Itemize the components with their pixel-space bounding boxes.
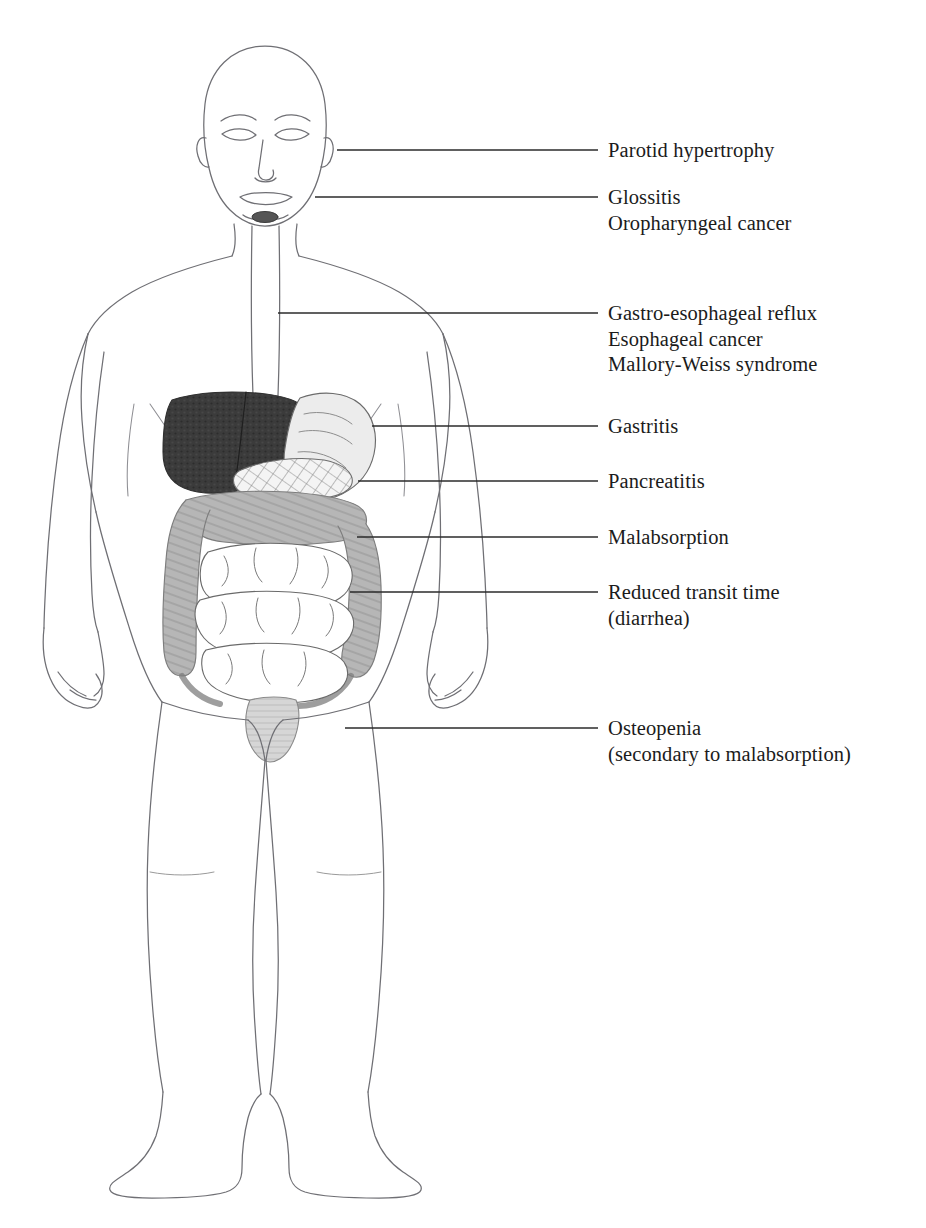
label-gastritis: Gastritis — [608, 414, 678, 440]
label-pancreatitis: Pancreatitis — [608, 469, 705, 495]
label-parotid-line-1: Parotid hypertrophy — [608, 138, 774, 164]
figure-caption — [36, 1216, 676, 1228]
label-esophagus: Gastro-esophageal refluxEsophageal cance… — [608, 301, 818, 378]
label-esophagus-line-2: Esophageal cancer — [608, 327, 818, 353]
label-osteopenia: Osteopenia(secondary to malabsorption) — [608, 716, 851, 767]
label-transit: Reduced transit time(diarrhea) — [608, 580, 780, 631]
label-parotid: Parotid hypertrophy — [608, 138, 774, 164]
label-transit-line-1: Reduced transit time — [608, 580, 780, 606]
label-gastritis-line-1: Gastritis — [608, 414, 678, 440]
label-glossitis-line-1: Glossitis — [608, 185, 792, 211]
label-osteopenia-line-2: (secondary to malabsorption) — [608, 742, 851, 768]
anatomical-figure: Parotid hypertrophyGlossitisOropharyngea… — [0, 0, 926, 1228]
label-list: Parotid hypertrophyGlossitisOropharyngea… — [0, 0, 926, 1228]
label-esophagus-line-1: Gastro-esophageal reflux — [608, 301, 818, 327]
label-esophagus-line-3: Mallory-Weiss syndrome — [608, 352, 818, 378]
label-osteopenia-line-1: Osteopenia — [608, 716, 851, 742]
label-glossitis: GlossitisOropharyngeal cancer — [608, 185, 792, 236]
label-malabsorption-line-1: Malabsorption — [608, 525, 729, 551]
label-transit-line-2: (diarrhea) — [608, 606, 780, 632]
label-malabsorption: Malabsorption — [608, 525, 729, 551]
label-pancreatitis-line-1: Pancreatitis — [608, 469, 705, 495]
label-glossitis-line-2: Oropharyngeal cancer — [608, 211, 792, 237]
